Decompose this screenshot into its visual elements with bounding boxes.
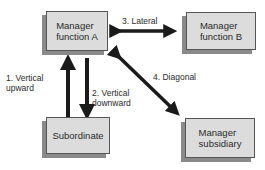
edge-label-vertical-downward: 2. Vertical downward <box>92 88 131 108</box>
node-label: Manager function B <box>200 20 242 42</box>
node-label: Manager function A <box>56 20 98 42</box>
node-subordinate: Subordinate <box>46 117 110 154</box>
node-manager-function-a: Manager function A <box>46 11 108 51</box>
node-manager-subsidiary: Manager subsidiary <box>185 118 255 158</box>
edge-label-diagonal: 4. Diagonal <box>153 72 196 82</box>
node-manager-function-b: Manager function B <box>186 12 256 50</box>
edge-label-vertical-upward: 1. Vertical upward <box>6 73 43 93</box>
edge-label-lateral: 3. Lateral <box>122 16 157 26</box>
node-label: Manager subsidiary <box>199 127 242 149</box>
node-label: Subordinate <box>52 130 103 141</box>
